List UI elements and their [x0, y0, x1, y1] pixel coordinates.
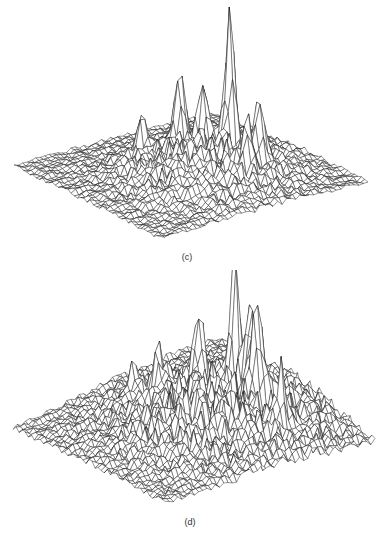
- panel-label-d: (d): [185, 517, 196, 527]
- surface-plot-c: (c): [0, 0, 389, 270]
- wireframe-surface-d: [0, 270, 389, 538]
- surface-plot-d: (d): [0, 270, 389, 538]
- wireframe-mesh: [13, 270, 375, 502]
- panel-label-c: (c): [182, 252, 193, 262]
- wireframe-surface-c: [0, 0, 389, 270]
- wireframe-mesh: [14, 7, 368, 237]
